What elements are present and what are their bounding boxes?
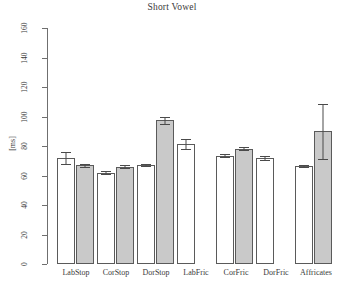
bar-corfric-gray [235,149,253,264]
error-bar-cap-upper [61,152,71,153]
y-tick-mark [42,176,47,177]
bar-dorstop-gray [156,120,174,264]
error-bar-cap-lower [299,167,309,168]
error-bar-affricates-gray [314,104,332,159]
error-bar-cap-lower [181,149,191,150]
error-bar-cap-lower [318,159,328,160]
y-tick-label: 120 [14,79,36,95]
error-bar-cap-lower [120,168,130,169]
error-bar-stem [323,104,324,159]
bar-labstop-white [57,158,75,264]
error-bar-cap-lower [160,124,170,125]
chart-figure: Short Vowel [ms] 020406080100120140160 L… [0,0,344,298]
y-tick-mark [42,146,47,147]
error-bar-cap-upper [181,139,191,140]
error-bar-cap-upper [220,154,230,155]
error-bar-labstop-gray [76,164,94,167]
y-tick-mark [42,235,47,236]
y-tick-mark [42,58,47,59]
error-bar-cap-upper [160,117,170,118]
error-bar-affricates-white [295,165,313,167]
error-bar-corstop-white [97,171,115,173]
bar-corstop-white [97,173,115,264]
y-tick-label: 100 [14,109,36,125]
error-bar-cap-lower [260,160,270,161]
plot-area: [ms] 020406080100120140160 LabStopCorSto… [0,0,344,298]
error-bar-cap-lower [61,164,71,165]
y-tick-mark [42,205,47,206]
error-bar-corstop-gray [116,165,134,167]
error-bar-stem [165,117,166,124]
error-bar-cap-lower [101,174,111,175]
error-bar-cap-upper [318,104,328,105]
bar-labstop-gray [76,165,94,264]
y-tick-label: 80 [14,138,36,154]
error-bar-cap-upper [239,147,249,148]
error-bar-cap-upper [299,165,309,166]
error-bar-dorstop-gray [156,117,174,124]
bar-corfric-white [216,156,234,264]
error-bar-cap-upper [260,156,270,157]
error-bar-stem [66,152,67,164]
error-bar-cap-lower [239,150,249,151]
error-bar-cap-lower [141,166,151,167]
y-tick-mark [42,28,47,29]
y-tick-mark [42,87,47,88]
y-tick-mark [42,264,47,265]
bar-dorfric-white [256,158,274,264]
y-tick-label: 160 [14,20,36,36]
y-tick-label: 0 [14,256,36,272]
error-bar-stem [186,139,187,149]
error-bar-corfric-white [216,154,234,156]
error-bar-cap-upper [80,164,90,165]
y-tick-label: 60 [14,168,36,184]
y-axis-line [47,28,48,264]
bar-dorstop-white [137,165,155,264]
error-bar-cap-lower [80,167,90,168]
bar-affricates-white [295,166,313,264]
error-bar-dorfric-white [256,156,274,160]
error-bar-cap-upper [120,165,130,166]
y-tick-label: 20 [14,227,36,243]
error-bar-dorstop-white [137,164,155,166]
y-tick-label: 40 [14,197,36,213]
error-bar-cap-upper [141,164,151,165]
error-bar-corfric-gray [235,147,253,150]
y-tick-mark [42,117,47,118]
error-bar-labfric-white [177,139,195,149]
error-bar-cap-upper [101,171,111,172]
x-axis-label-affricates: Affricates [286,268,344,277]
error-bar-cap-lower [220,157,230,158]
bar-labfric-white [177,144,195,264]
bar-corstop-gray [116,167,134,264]
y-tick-label: 140 [14,50,36,66]
error-bar-labstop-white [57,152,75,164]
